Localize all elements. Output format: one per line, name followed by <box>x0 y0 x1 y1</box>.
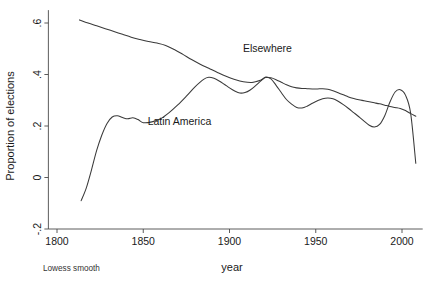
y-tick-label: .4 <box>31 70 43 79</box>
series-line-elsewhere <box>79 20 415 116</box>
chart-plot-area: -.20.2.4.6 18001850190019502000 Elsewher… <box>0 0 425 291</box>
x-tick-label: 1950 <box>304 235 328 247</box>
x-tick-label: 2000 <box>390 235 414 247</box>
series-label-elsewhere: Elsewhere <box>243 42 292 54</box>
chart-note: Lowess smooth <box>43 264 100 273</box>
y-tick-label: .6 <box>31 18 43 27</box>
y-tick-label: 0 <box>31 174 43 180</box>
x-tick-label: 1850 <box>132 235 156 247</box>
y-axis-title: Proportion of elections <box>4 71 16 181</box>
series-line-latin-america <box>81 77 416 201</box>
y-tick-label: .2 <box>31 121 43 130</box>
lowess-smooth-chart: -.20.2.4.6 18001850190019502000 Elsewher… <box>0 0 425 291</box>
y-tick-label: -.2 <box>31 223 43 235</box>
x-tick-label: 1800 <box>45 235 69 247</box>
series-label-latin-america: Latin America <box>148 115 212 127</box>
x-axis-ticks: 18001850190019502000 <box>45 229 414 247</box>
x-axis-title: year <box>221 261 243 273</box>
y-axis-ticks: -.20.2.4.6 <box>31 18 48 235</box>
x-tick-label: 1900 <box>218 235 242 247</box>
series-inline-labels: ElsewhereLatin America <box>148 42 292 127</box>
